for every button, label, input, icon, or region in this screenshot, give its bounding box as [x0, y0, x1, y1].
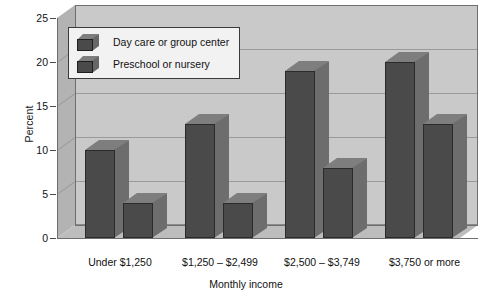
legend-swatch-cube-icon — [77, 56, 99, 73]
y-tick-label-20: 20 — [22, 57, 48, 67]
y-tick-label-25: 25 — [22, 13, 48, 23]
axis-edge-top-back — [75, 5, 478, 6]
y-tick-label-15: 15 — [22, 101, 48, 111]
axis-edge-right-back — [477, 5, 478, 225]
y-tick-label-10: 10 — [22, 145, 48, 155]
y-tick-mark-10 — [50, 150, 56, 151]
x-tick-label-3750-or-more: $3,750 or more — [362, 256, 487, 268]
legend-label-day-care: Day care or group center — [113, 36, 229, 48]
y-tick-mark-5 — [50, 194, 56, 195]
y-tick-label-5: 5 — [22, 189, 48, 199]
y-tick-mark-20 — [50, 62, 56, 63]
bar-chart: Percent 25 20 15 10 5 0 Day care or grou… — [0, 0, 492, 298]
axis-edge-floor-front — [57, 238, 478, 239]
y-tick-mark-15 — [50, 106, 56, 107]
legend-label-preschool: Preschool or nursery — [113, 58, 210, 70]
legend: Day care or group center Preschool or nu… — [68, 27, 240, 79]
x-axis-title: Monthly income — [0, 278, 492, 290]
y-tick-label-0: 0 — [22, 233, 48, 243]
axis-edge-left-front — [57, 18, 58, 238]
y-tick-mark-0 — [50, 238, 56, 239]
y-tick-mark-25 — [50, 18, 56, 19]
legend-swatch-cube-icon — [77, 34, 99, 51]
